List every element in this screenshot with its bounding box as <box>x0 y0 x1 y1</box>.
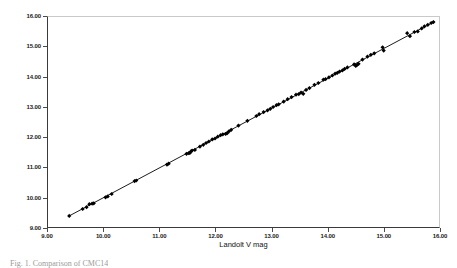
data-point <box>405 31 409 35</box>
best-fit-line <box>69 22 435 217</box>
x-tick-label: 13.00 <box>264 233 279 239</box>
plot-area <box>47 16 440 228</box>
y-tick-label: 10.00 <box>26 195 41 201</box>
data-point <box>282 100 286 104</box>
x-tick-label: 10.00 <box>96 233 111 239</box>
x-axis-title: Landolt V mag <box>47 240 440 249</box>
y-tick-label: 14.00 <box>26 74 41 80</box>
y-tick-label: 13.00 <box>26 104 41 110</box>
x-tick-mark <box>103 228 104 232</box>
x-tick-mark <box>215 228 216 232</box>
data-point <box>67 214 71 218</box>
data-point <box>408 34 412 38</box>
scatter-plot-canvas <box>48 17 439 227</box>
data-point <box>304 88 308 92</box>
y-tick-label: 15.00 <box>26 43 41 49</box>
x-tick-label: 16.00 <box>433 233 448 239</box>
y-tick-label: 16.00 <box>26 13 41 19</box>
y-tick-label: 9.00 <box>30 225 41 231</box>
x-tick-label: 9.00 <box>41 233 52 239</box>
x-tick-label: 14.00 <box>320 233 335 239</box>
data-point <box>307 86 311 90</box>
x-tick-mark <box>328 228 329 232</box>
y-tick-label: 12.00 <box>26 134 41 140</box>
x-tick-label: 12.00 <box>208 233 223 239</box>
x-tick-mark <box>440 228 441 232</box>
figure-container: CMC14 calculated V mag 9.0010.0011.0012.… <box>0 0 457 268</box>
y-tick-label: 11.00 <box>27 164 41 170</box>
x-tick-mark <box>159 228 160 232</box>
x-tick-label: 15.00 <box>377 233 392 239</box>
figure-caption: Fig. 1. Comparison of CMC14 <box>10 259 108 268</box>
x-tick-mark <box>47 228 48 232</box>
x-tick-mark <box>384 228 385 232</box>
x-tick-label: 11.00 <box>152 233 166 239</box>
x-tick-mark <box>272 228 273 232</box>
